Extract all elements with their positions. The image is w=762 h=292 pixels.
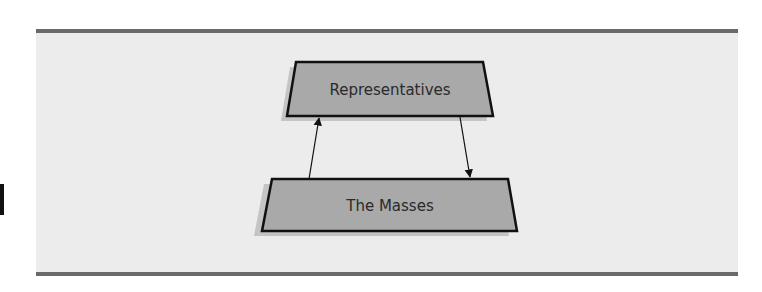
arrow-down-representatives-to-masses: [460, 117, 470, 177]
node-masses-label: The Masses: [345, 197, 434, 215]
diagram-canvas: Representatives The Masses: [0, 0, 762, 292]
node-representatives: Representatives: [281, 62, 493, 121]
node-representatives-label: Representatives: [329, 81, 450, 99]
arrow-up-masses-to-representatives: [309, 118, 319, 179]
node-masses: The Masses: [254, 179, 517, 236]
